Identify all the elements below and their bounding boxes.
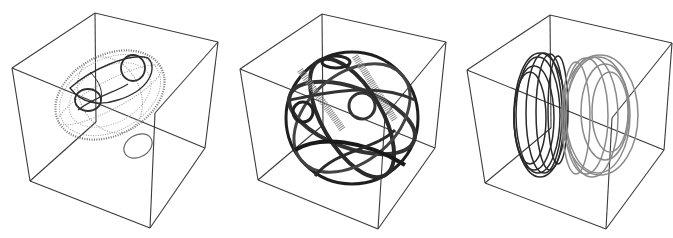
projection-ellipse [120,129,157,163]
bounding-box [467,15,672,229]
ellipsoid-shell [40,32,180,157]
banded-sphere-dark-half [514,53,568,177]
tube-sphere [273,42,431,194]
panel-right [450,0,673,238]
bounding-box [240,14,446,229]
panel-middle [225,0,450,238]
cube-plot-right [450,0,673,238]
banded-sphere-light-half [562,55,638,177]
cube-plot-middle [225,0,450,238]
cube-plot-left [0,0,225,238]
bounding-box [12,13,218,228]
trajectory-loops [70,55,152,111]
panel-left [0,0,225,238]
